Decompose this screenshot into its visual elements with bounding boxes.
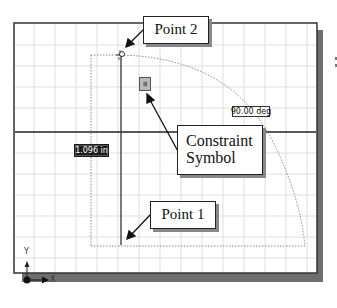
constraint-symbol-icon[interactable]: ≡ (139, 77, 151, 91)
constraint-glyph: ≡ (141, 81, 149, 87)
x-axis-label: X (50, 275, 55, 284)
callout-constraint-line1: Constraint (186, 133, 253, 150)
y-axis-label: Y (24, 247, 29, 256)
length-dimension-label[interactable]: 1.096 in (75, 145, 108, 156)
angle-dimension-label[interactable]: 90.00 deg (232, 106, 270, 117)
callout-point-1: Point 1 (150, 201, 216, 229)
callout-point-2: Point 2 (143, 16, 209, 44)
callout-point-2-text: Point 2 (155, 22, 198, 38)
sketch-canvas (0, 0, 337, 308)
callout-point-1-text: Point 1 (162, 207, 205, 223)
graphics-frame (14, 23, 317, 273)
callout-constraint-symbol: Constraint Symbol (177, 125, 263, 175)
sketch-viewport: Y X ≡ 1.096 in 90.00 deg Point 2 Constra… (0, 0, 337, 308)
callout-constraint-line2: Symbol (186, 150, 236, 167)
